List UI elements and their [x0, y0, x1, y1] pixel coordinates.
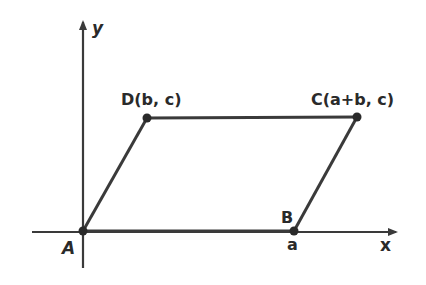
side-da	[83, 118, 147, 231]
b-coordinate-label: a	[287, 235, 298, 254]
side-bc	[294, 117, 357, 231]
vertex-d-dot	[143, 114, 152, 123]
vertex-a-label: A	[60, 238, 75, 258]
x-axis-label: x	[380, 235, 391, 255]
vertex-c-dot	[353, 113, 362, 122]
vertex-d-label: D(b, c)	[121, 90, 182, 109]
vertex-b-label: B	[281, 208, 293, 227]
vertex-a-dot	[79, 227, 88, 236]
parallelogram-diagram: y x A B a C(a+b, c) D(b, c)	[0, 0, 426, 285]
y-axis-label: y	[92, 18, 104, 38]
vertex-c-label: C(a+b, c)	[311, 90, 394, 109]
side-cd	[147, 117, 357, 118]
parallelogram	[83, 117, 357, 231]
